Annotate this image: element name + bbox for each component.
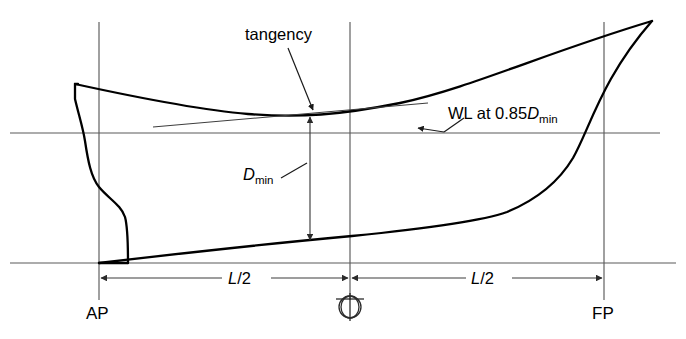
half-length-right-symbol: L	[471, 269, 480, 287]
reference-lines	[10, 22, 676, 300]
waterline-label-subscript: min	[539, 113, 558, 125]
half-length-left-symbol: L	[228, 269, 237, 287]
dmin-label: Dmin	[243, 165, 273, 186]
waterline-leader-line	[418, 128, 444, 132]
half-length-right-rest: /2	[480, 269, 494, 287]
dmin-leader-line	[281, 163, 307, 178]
dmin-label-subscript: min	[255, 174, 274, 186]
midship-section-symbol	[336, 293, 364, 321]
fp-label: FP	[592, 304, 614, 323]
waterline-label-symbol: D	[527, 104, 539, 122]
figure-container: tangency WL at 0.85Dmin Dmin L/2	[0, 0, 686, 339]
half-length-left-rest: /2	[237, 269, 251, 287]
half-length-left-label: L/2	[228, 269, 251, 287]
half-length-dimensions: L/2 L/2	[101, 269, 602, 287]
waterline-label-prefix: WL at 0.85	[448, 104, 527, 122]
tangency-callout: tangency	[245, 25, 313, 110]
tangency-label: tangency	[245, 25, 313, 43]
waterline-callout: WL at 0.85Dmin	[418, 104, 558, 132]
dmin-dimension: Dmin	[243, 117, 310, 240]
ap-label: AP	[86, 304, 109, 323]
sheer-deck-line	[75, 21, 652, 116]
ship-profile-diagram: tangency WL at 0.85Dmin Dmin L/2	[0, 0, 686, 339]
stern-profile-line	[75, 85, 128, 263]
keel-bottom-line	[99, 21, 652, 263]
half-length-right-label: L/2	[471, 269, 494, 287]
waterline-label: WL at 0.85Dmin	[448, 104, 558, 125]
dmin-label-symbol: D	[243, 165, 255, 183]
tangency-leader-line	[288, 48, 313, 110]
hull-outline	[75, 21, 652, 263]
